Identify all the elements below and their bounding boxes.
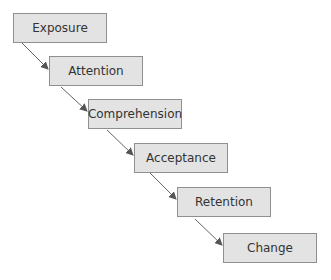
step-comprehension: Comprehension (88, 99, 182, 129)
arrow-exposure-attention (22, 43, 48, 69)
step-attention: Attention (49, 56, 143, 86)
step-retention: Retention (177, 187, 271, 217)
arrow-acceptance-retention (150, 173, 176, 199)
arrow-retention-change (195, 219, 222, 245)
step-exposure: Exposure (13, 13, 107, 43)
arrow-comprehension-acceptance (107, 130, 133, 155)
step-acceptance: Acceptance (134, 143, 228, 173)
arrow-attention-comprehension (61, 87, 87, 111)
step-change: Change (223, 233, 317, 263)
